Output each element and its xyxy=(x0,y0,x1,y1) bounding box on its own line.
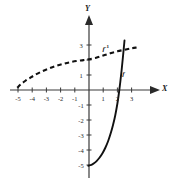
x-tick-label: -4 xyxy=(29,95,34,102)
y-tick-label: 3 xyxy=(79,42,82,49)
x-tick-label: 2 xyxy=(116,95,119,102)
x-tick-label: -1 xyxy=(72,95,77,102)
y-axis-arrow-icon xyxy=(85,15,93,25)
x-tick-label: -5 xyxy=(15,95,20,102)
graph-figure: -5-4-3-2-112331-1-2-3-4-5 Y X f f-1 xyxy=(0,0,172,183)
curve-label-f-inverse: f-1 xyxy=(102,44,109,53)
curve-label-f: f xyxy=(122,70,124,78)
y-tick-label: 1 xyxy=(79,72,82,79)
y-tick-label: -4 xyxy=(78,147,83,154)
y-tick-label: -1 xyxy=(78,102,83,109)
x-axis-arrow-icon xyxy=(150,86,160,94)
x-tick-label: -3 xyxy=(44,95,49,102)
y-axis-label: Y xyxy=(85,4,90,13)
x-axis-label: X xyxy=(162,84,167,93)
x-tick-label: 1 xyxy=(102,95,105,102)
coordinate-plane-svg xyxy=(0,0,172,183)
x-tick-label: -2 xyxy=(58,95,63,102)
x-tick-label: 3 xyxy=(130,95,133,102)
curve-f-inverse xyxy=(17,48,136,88)
y-tick-label: -2 xyxy=(78,117,83,124)
curve-f xyxy=(88,41,124,166)
y-tick-label: -3 xyxy=(78,132,83,139)
f-inverse-exponent: -1 xyxy=(105,44,109,49)
y-tick-label: -5 xyxy=(78,162,83,169)
